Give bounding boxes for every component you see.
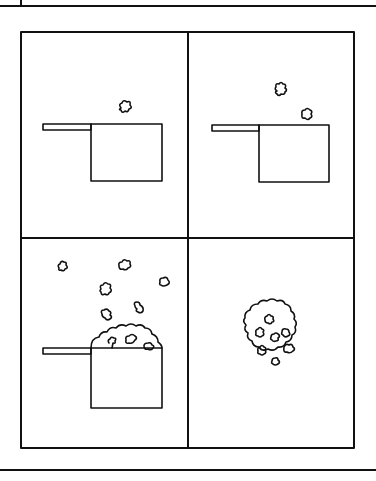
popcorn-kernel-icon xyxy=(271,333,280,341)
popcorn-kernel-icon xyxy=(119,260,131,270)
illustration-frame xyxy=(0,0,376,481)
popcorn-kernel-icon xyxy=(126,335,137,344)
panel-bottom-right xyxy=(244,299,297,365)
top-rule xyxy=(0,0,376,6)
popcorn-kernel-icon xyxy=(256,328,264,338)
popcorn-kernel-icon xyxy=(58,261,67,270)
popcorn-kernel-icon xyxy=(108,337,116,348)
popcorn-kernel-icon xyxy=(302,109,312,120)
popcorn-kernel-icon xyxy=(265,315,274,324)
popcorn-kernel-icon xyxy=(284,344,295,352)
saucepan-icon xyxy=(212,125,329,182)
popcorn-kernel-icon xyxy=(100,283,111,295)
saucepan-icon xyxy=(43,124,162,181)
panel-top-left xyxy=(43,101,162,181)
popcorn-kernel-icon xyxy=(120,101,132,113)
popcorn-kernel-icon xyxy=(282,329,290,337)
panel-grid xyxy=(21,32,354,448)
popcorn-kernel-icon xyxy=(101,309,111,320)
popcorn-kernel-icon xyxy=(160,277,170,286)
panel-top-right xyxy=(212,83,329,183)
panel-bottom-left xyxy=(43,260,169,408)
popcorn-kernel-icon xyxy=(144,343,154,350)
popcorn-kernel-icon xyxy=(272,358,280,365)
popcorn-kernel-icon xyxy=(275,83,286,96)
saucepan-icon xyxy=(43,348,162,408)
popcorn-kernel-icon xyxy=(134,302,143,313)
